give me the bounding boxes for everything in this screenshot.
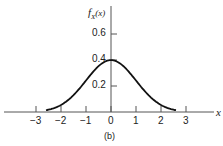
x-tick-label: −3	[30, 116, 41, 126]
x-tick-label: −2	[55, 116, 66, 126]
chart: fX(x) x (b) −3−2−10123 0.20.40.6	[0, 0, 223, 146]
x-tick-label: 3	[183, 116, 189, 126]
y-tick-label: 0.6	[92, 28, 106, 38]
y-tick-label: 0.2	[92, 80, 106, 90]
x-tick-label: 1	[133, 116, 139, 126]
x-tick-label: 0	[108, 116, 114, 126]
y-tick-label: 0.4	[92, 54, 106, 64]
caption: (b)	[104, 131, 115, 141]
x-tick-label: −1	[80, 116, 91, 126]
x-axis-label: x	[216, 107, 221, 117]
x-tick-label: 2	[158, 116, 164, 126]
y-axis-label: fX(x)	[88, 7, 105, 22]
